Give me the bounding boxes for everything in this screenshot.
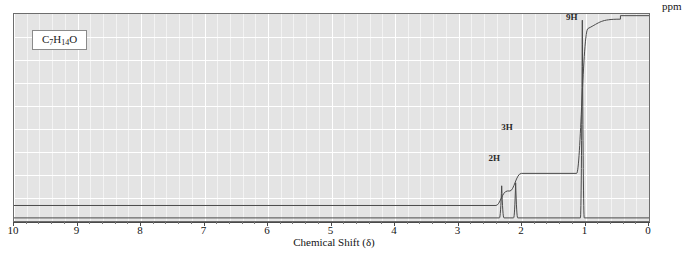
ppm-unit-label: ppm	[662, 0, 682, 12]
x-axis-tick-label: 9	[74, 224, 80, 236]
x-axis-title: Chemical Shift (δ)	[0, 236, 668, 248]
x-axis-tick-label: 5	[328, 224, 334, 236]
annotation-2H: 2H	[489, 153, 501, 163]
x-axis-tick-label: 1	[582, 224, 588, 236]
annotation-9H: 9H	[566, 13, 578, 22]
annotation-3H: 3H	[501, 122, 513, 132]
x-axis-tick-label: 0	[645, 224, 651, 236]
x-axis-line	[13, 222, 650, 223]
x-axis-tick-label: 7	[201, 224, 207, 236]
spectrum-traces	[14, 14, 649, 221]
x-axis-tick-label: 8	[137, 224, 143, 236]
x-axis-tick-label: 3	[455, 224, 461, 236]
x-axis-tick-label: 4	[391, 224, 397, 236]
x-axis-tick-label: 6	[264, 224, 270, 236]
integration-curve	[14, 16, 649, 206]
x-axis-tick-label: 10	[8, 224, 19, 236]
x-axis-tick-label: 2	[518, 224, 524, 236]
plot-area: C7H14O 2H 3H 9H	[13, 13, 650, 222]
spectrum-trace	[14, 20, 649, 218]
molecular-formula-label: C7H14O	[32, 30, 87, 50]
